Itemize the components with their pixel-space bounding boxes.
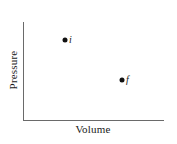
x-axis xyxy=(23,120,164,121)
point-i-marker xyxy=(63,38,68,43)
y-axis xyxy=(23,22,24,120)
point-f-label: f xyxy=(126,75,129,85)
pv-diagram: Pressure Volume i f xyxy=(0,0,177,144)
point-f-marker xyxy=(120,78,125,83)
y-axis-label: Pressure xyxy=(7,51,19,90)
point-i-label: i xyxy=(69,35,72,45)
x-axis-label: Volume xyxy=(75,123,110,135)
